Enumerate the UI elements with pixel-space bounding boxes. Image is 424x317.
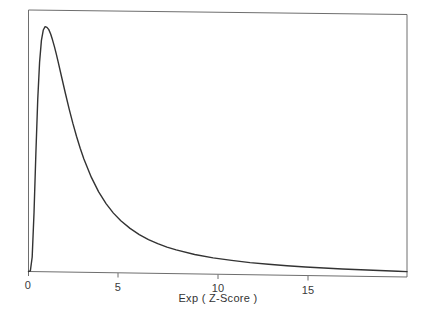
x-tick-label-5: 5 [115, 281, 121, 293]
x-tick-label-0: 0 [25, 279, 31, 291]
chart-figure: 0 5 10 15 Exp ( Z-Score ) Likelihood [0, 0, 424, 317]
x-axis-title: Exp ( Z-Score ) [178, 292, 257, 304]
plot-area [0, 0, 424, 317]
x-tick-label-15: 15 [302, 284, 315, 296]
plot-frame [29, 10, 408, 277]
